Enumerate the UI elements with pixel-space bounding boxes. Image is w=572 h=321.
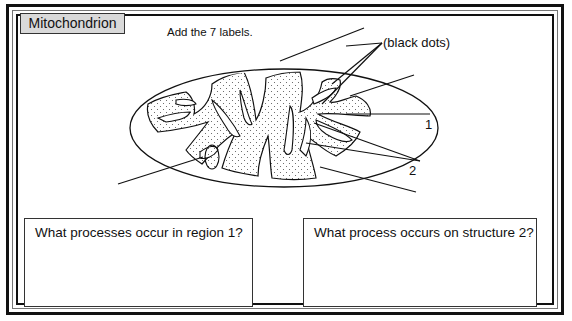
dna-granule xyxy=(205,145,219,169)
label-region-1: 1 xyxy=(425,117,432,132)
label-black-dots: (black dots) xyxy=(383,35,450,50)
question-structure-2: What process occurs on structure 2? xyxy=(314,225,534,240)
answer-box-region-1[interactable]: What processes occur in region 1? xyxy=(24,218,253,307)
question-region-1: What processes occur in region 1? xyxy=(35,225,243,240)
answer-box-structure-2[interactable]: What process occurs on structure 2? xyxy=(303,218,537,307)
label-structure-2: 2 xyxy=(409,163,416,178)
